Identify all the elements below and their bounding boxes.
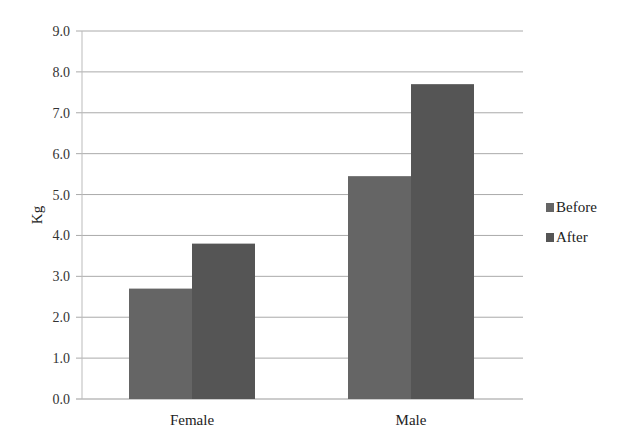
bar-male-after	[411, 84, 474, 399]
legend: BeforeAfter	[546, 199, 597, 245]
bar-female-after	[192, 244, 255, 399]
bar-female-before	[129, 289, 192, 399]
legend-swatch	[546, 203, 554, 212]
y-tick-label: 4.0	[53, 228, 71, 243]
x-category-label: Female	[170, 412, 214, 428]
legend-label: Before	[556, 199, 597, 215]
x-axis-categories: FemaleMale	[170, 412, 427, 428]
y-axis-label: Kg	[29, 205, 45, 224]
bars	[129, 84, 474, 399]
bar-male-before	[348, 176, 411, 399]
y-tick-label: 5.0	[53, 188, 71, 203]
legend-label: After	[556, 229, 588, 245]
legend-swatch	[546, 233, 554, 242]
y-axis-ticks: 0.01.02.03.04.05.06.07.08.09.0	[53, 24, 71, 407]
y-tick-label: 9.0	[53, 24, 71, 39]
y-tick-label: 2.0	[53, 310, 71, 325]
y-tick-label: 3.0	[53, 269, 71, 284]
y-tick-label: 1.0	[53, 351, 71, 366]
y-tick-label: 6.0	[53, 147, 71, 162]
y-tick-label: 8.0	[53, 65, 71, 80]
x-category-label: Male	[396, 412, 427, 428]
y-tick-label: 0.0	[53, 392, 71, 407]
bar-chart: 0.01.02.03.04.05.06.07.08.09.0 FemaleMal…	[0, 0, 626, 448]
y-tick-label: 7.0	[53, 106, 71, 121]
